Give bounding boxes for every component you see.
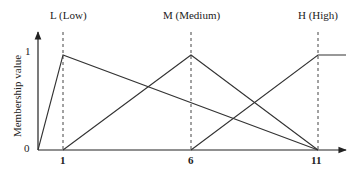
membership-function-chart: [0, 0, 361, 172]
x-tick-11: 11: [311, 154, 321, 166]
series-high: [191, 55, 346, 150]
series-low: [38, 55, 318, 150]
y-tick-0: 0: [24, 142, 30, 154]
y-axis-label: Membership value: [11, 51, 23, 141]
x-tick-6: 6: [188, 154, 194, 166]
x-tick-1: 1: [60, 154, 66, 166]
label-low: L (Low): [50, 9, 87, 21]
label-high: H (High): [298, 9, 338, 21]
label-medium: M (Medium): [163, 9, 220, 21]
y-tick-1: 1: [25, 45, 31, 57]
